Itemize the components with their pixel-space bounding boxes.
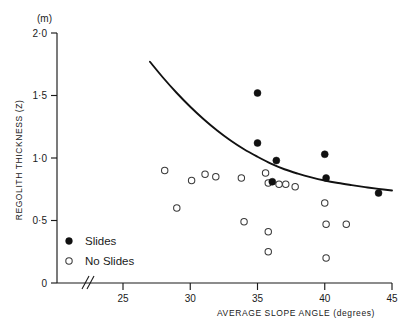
data-point-no-slides xyxy=(265,229,271,235)
legend-label-slides: Slides xyxy=(85,235,117,247)
data-point-no-slides xyxy=(265,249,271,255)
y-axis-unit-label: (m) xyxy=(37,13,52,24)
x-axis-tick-labels: 2530354045 xyxy=(117,293,398,304)
data-point-slides xyxy=(254,140,261,147)
y-tick-label: 2·0 xyxy=(33,28,48,39)
legend-marker-no-slides-icon xyxy=(66,258,72,264)
data-point-no-slides xyxy=(162,167,168,173)
data-series-no-slides xyxy=(162,167,350,261)
data-point-no-slides xyxy=(323,255,329,261)
data-point-slides xyxy=(321,151,328,158)
y-tick-label: 1·5 xyxy=(33,90,48,101)
data-point-slides xyxy=(375,190,382,197)
data-point-no-slides xyxy=(238,175,244,181)
y-tick-label: 1·0 xyxy=(33,153,48,164)
y-axis-ticks xyxy=(51,33,57,283)
x-axis-ticks xyxy=(123,283,392,290)
data-point-no-slides xyxy=(323,221,329,227)
x-axis-title: AVERAGE SLOPE ANGLE (degrees) xyxy=(217,308,375,318)
data-point-no-slides xyxy=(188,177,194,183)
y-axis-title: REGOLITH THICKNESS (Z) xyxy=(14,100,24,221)
data-point-no-slides xyxy=(283,181,289,187)
data-point-slides xyxy=(273,157,280,164)
x-tick-label: 30 xyxy=(185,293,197,304)
legend-label-no-slides: No Slides xyxy=(85,255,134,267)
data-point-no-slides xyxy=(262,170,268,176)
data-series-slides xyxy=(254,90,382,197)
x-tick-label: 35 xyxy=(252,293,264,304)
x-tick-label: 40 xyxy=(319,293,331,304)
y-tick-label: 0 xyxy=(41,278,47,289)
data-point-no-slides xyxy=(292,184,298,190)
data-point-no-slides xyxy=(276,181,282,187)
data-point-slides xyxy=(254,90,261,97)
y-tick-label: 0·5 xyxy=(33,215,48,226)
data-point-no-slides xyxy=(202,171,208,177)
data-point-no-slides xyxy=(322,200,328,206)
fitted-trend-curve xyxy=(150,62,392,191)
data-point-no-slides xyxy=(213,174,219,180)
x-tick-label: 45 xyxy=(386,293,398,304)
data-point-no-slides xyxy=(174,205,180,211)
y-axis-group: 00·51·01·52·0 xyxy=(33,28,57,289)
data-point-slides xyxy=(323,175,330,182)
x-tick-label: 25 xyxy=(117,293,129,304)
data-point-no-slides xyxy=(343,221,349,227)
data-point-slides xyxy=(269,178,276,185)
regolith-thickness-scatter-figure: 00·51·01·52·0 2530354045 (m) REGOLITH TH… xyxy=(0,0,420,328)
chart-canvas: 00·51·01·52·0 2530354045 (m) REGOLITH TH… xyxy=(0,0,420,328)
y-axis-tick-labels: 00·51·01·52·0 xyxy=(33,28,48,289)
legend-marker-slides-icon xyxy=(66,238,73,245)
legend: Slides No Slides xyxy=(66,235,135,267)
x-axis-group: 2530354045 xyxy=(57,276,398,304)
data-point-no-slides xyxy=(241,219,247,225)
